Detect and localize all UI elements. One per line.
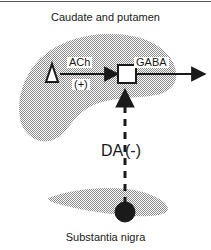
diagram-canvas (0, 0, 211, 250)
dopaminergic-neuron-circle[interactable] (115, 202, 135, 222)
neuroanatomy-diagram: Caudate and putamen ACh (+) GABA DA (-) … (0, 0, 211, 250)
ach-label: ACh (67, 57, 92, 68)
caudate-putamen-region (19, 34, 176, 142)
da-sign-label: (-) (125, 143, 141, 159)
gaba-label: GABA (134, 57, 169, 68)
ach-sign-label: (+) (72, 79, 90, 90)
region-caption-substantia-nigra: Substantia nigra (0, 232, 211, 243)
da-label: DA (101, 143, 123, 159)
substantia-nigra-region (48, 188, 168, 216)
region-title-caudate-putamen: Caudate and putamen (0, 12, 211, 23)
